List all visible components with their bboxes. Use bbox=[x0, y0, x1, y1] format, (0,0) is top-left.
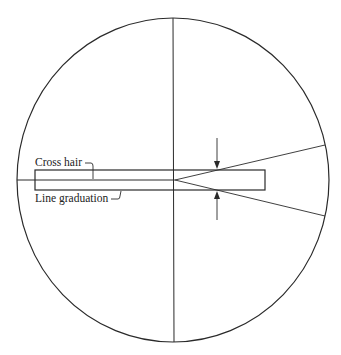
line-graduation-label: Line graduation bbox=[35, 192, 108, 205]
wedge-lower-line bbox=[175, 180, 325, 216]
lower-arrow-icon bbox=[214, 191, 220, 220]
line-graduation-leader bbox=[111, 191, 121, 199]
wedge-upper-line bbox=[175, 145, 325, 180]
reticle-diagram: Cross hair Line graduation bbox=[0, 0, 341, 355]
upper-arrow-icon bbox=[214, 138, 220, 169]
cross-hair-label: Cross hair bbox=[35, 156, 82, 168]
cross-hair-leader bbox=[85, 163, 93, 179]
